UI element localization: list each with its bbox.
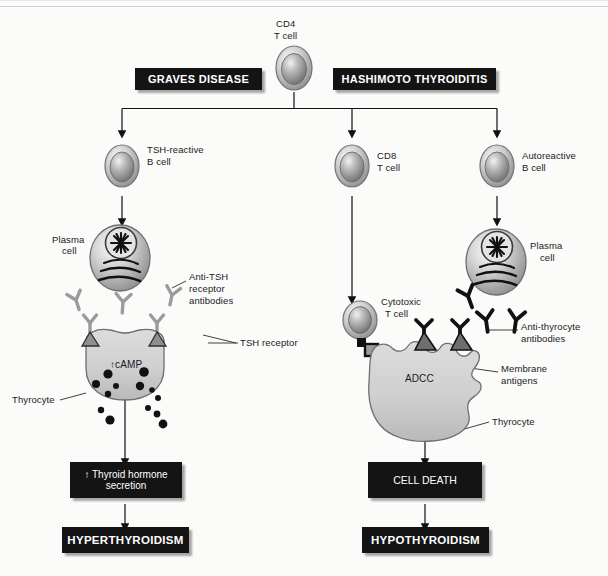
membrane-antigens-label-line2: antigens [501,375,538,386]
autoreactive-b-cell-label-line2: B cell [522,162,546,173]
tsh-receptor-label: TSH receptor [240,337,298,348]
autoreactive-b-cell-glyph [480,145,514,187]
plasma-cell-right-glyph [416,229,526,340]
clock-face-chromatin-left [111,233,131,253]
autoreactive-b-cell-label-line1: Autoreactive [522,150,576,161]
hyperthyroidism-box[interactable]: HYPERTHYROIDISM [62,527,189,553]
camp-label: ↑cAMP [110,359,142,370]
diagram-canvas: CD4 T cell GRAVES DISEASE HASHIMOTO THYR… [0,0,608,576]
cd4-t-cell-label-line1: CD4 [276,18,295,29]
anti-tsh-antibodies-label-line2: receptor [189,283,225,294]
adcc-label: ADCC [405,373,434,384]
plasma-cell-right-label-line2: cell [540,252,555,263]
leader-thyrocyte-left [60,393,86,400]
thyrocyte-right-label: Thyrocyte [492,416,535,427]
plasma-cell-right-label-line1: Plasma [530,240,562,251]
cytotoxic-t-cell-label-line2: T cell [385,308,408,319]
anti-thyrocyte-antibodies-label-line2: antibodies [521,333,565,344]
cd4-t-cell-label-line2: T cell [274,30,297,41]
hashimoto-thyroiditis-box[interactable]: HASHIMOTO THYROIDITIS [333,68,496,90]
hypothyroidism-box[interactable]: HYPOTHYROIDISM [362,527,489,553]
cytotoxic-t-cell-glyph [343,301,378,356]
thyroid-hormone-secretion-box[interactable]: ↑ Thyroid hormone secretion [70,462,182,498]
membrane-antigens-label-line1: Membrane [501,363,547,374]
hormone-box-line2: secretion [106,480,147,491]
cell-death-box[interactable]: CELL DEATH [368,462,482,498]
plasma-cell-left-label-line1: Plasma [52,234,84,245]
graves-disease-box[interactable]: GRAVES DISEASE [135,68,262,90]
plasma-cell-left-label-line2: cell [62,245,77,256]
anti-thyrocyte-antibodies-label-line1: Anti-thyrocyte [521,321,580,332]
thyrocyte-right-glyph [369,332,481,441]
thyrocyte-left-label: Thyrocyte [12,394,55,405]
cytotoxic-t-cell-label-line1: Cytotoxic [381,296,421,307]
leader-anti-tsh [172,281,186,288]
cd4-t-cell-glyph [276,46,312,90]
anti-tsh-antibodies-label-line3: antibodies [189,295,233,306]
tsh-reactive-b-cell-label-line1: TSH-reactive [147,144,204,155]
hormone-granules-released [98,405,168,428]
cd8-t-cell-label-line1: CD8 [377,150,396,161]
tsh-reactive-b-cell-glyph [105,145,139,187]
cd8-t-cell-glyph [335,145,369,187]
anti-tsh-antibodies-label-line1: Anti-TSH [189,271,228,282]
cd8-t-cell-label-line2: T cell [377,162,400,173]
leader-tsh-receptor-2 [203,335,236,343]
anti-thyrocyte-antibody-glyphs [416,285,525,340]
clock-face-chromatin-right [487,237,507,257]
tsh-reactive-b-cell-label-line2: B cell [147,156,171,167]
hormone-box-line1: ↑ Thyroid hormone [84,469,167,480]
